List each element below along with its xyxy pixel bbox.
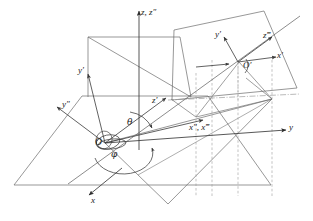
origin-label: O [95, 138, 102, 148]
y-prime-left-label: y′ [78, 66, 84, 75]
x-prime-right-label: x′ [277, 51, 283, 60]
y-double-prime-label: y″ [62, 100, 70, 109]
intermediate-axes [57, 16, 300, 184]
node-pointer [196, 64, 229, 67]
phi-label: φ [111, 150, 117, 159]
rotated-frame-axes [196, 37, 276, 100]
x-axis-line [89, 168, 122, 195]
node-line [68, 16, 300, 184]
euler-angle-diagram: z, z″ y x y′ y″ z′ x″, x‴ O θ φ y′ z‴ x′… [0, 0, 313, 221]
y-axis-label: y [289, 123, 293, 132]
z-prime-right-label: z‴ [263, 31, 270, 40]
y-prime-rotated-axis [224, 37, 238, 62]
origin-prime-label: O′ [243, 61, 251, 70]
angle-arcs [94, 112, 153, 174]
vertical-plane [88, 37, 191, 97]
z-axis-label: z, z″ [141, 8, 156, 17]
y-prime-right-label: y′ [215, 30, 221, 39]
z-prime-center-label: z′ [152, 96, 157, 105]
x-double-triple-prime-label: x″, x‴ [189, 123, 209, 132]
theta-label: θ [127, 118, 132, 127]
x-axis-label: x [91, 196, 95, 205]
